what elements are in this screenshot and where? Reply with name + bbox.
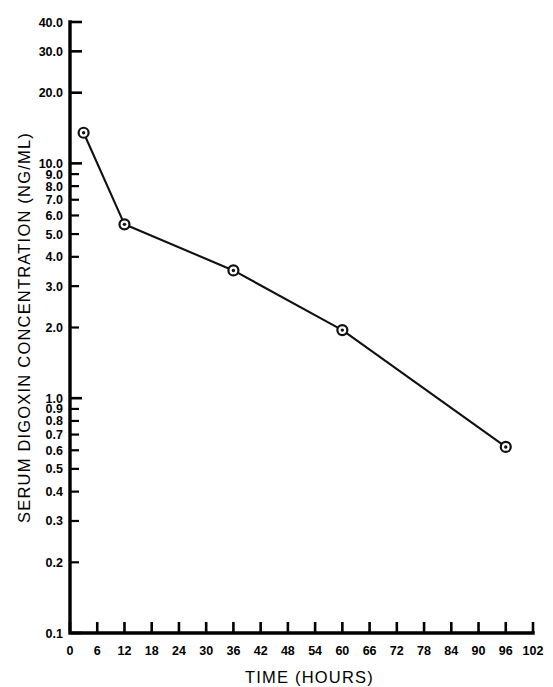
x-tick-label-42: 42 — [254, 644, 268, 658]
x-tick-label-102: 102 — [523, 644, 544, 658]
y-tick-label-20.0: 20.0 — [39, 86, 63, 100]
y-tick-label-0.1: 0.1 — [46, 627, 63, 641]
x-tick-label-12: 12 — [118, 644, 132, 658]
x-tick-label-0: 0 — [67, 644, 74, 658]
x-tick-label-84: 84 — [444, 644, 458, 658]
data-point-center-12h — [123, 223, 126, 226]
x-tick-label-66: 66 — [363, 644, 377, 658]
x-tick-label-30: 30 — [199, 644, 213, 658]
x-tick-label-90: 90 — [472, 644, 486, 658]
y-tick-label-5.0: 5.0 — [46, 228, 63, 242]
y-tick-label-30.0: 30.0 — [39, 45, 63, 59]
chart-container: 40.030.020.010.09.08.07.06.05.04.03.02.0… — [0, 0, 553, 687]
y-tick-label-0.7: 0.7 — [46, 428, 63, 442]
x-tick-label-6: 6 — [94, 644, 101, 658]
x-tick-label-24: 24 — [172, 644, 186, 658]
y-tick-label-0.5: 0.5 — [46, 462, 63, 476]
y-tick-label-4.0: 4.0 — [46, 250, 63, 264]
x-tick-label-96: 96 — [499, 644, 513, 658]
x-tick-label-54: 54 — [308, 644, 322, 658]
x-tick-label-78: 78 — [417, 644, 431, 658]
y-tick-label-0.2: 0.2 — [46, 556, 63, 570]
x-tick-label-72: 72 — [390, 644, 404, 658]
x-axis-title: TIME (HOURS) — [245, 668, 374, 686]
x-tick-label-18: 18 — [145, 644, 159, 658]
axis-lines — [70, 22, 533, 633]
semilog-line-chart: 40.030.020.010.09.08.07.06.05.04.03.02.0… — [0, 0, 553, 687]
y-tick-label-7.0: 7.0 — [46, 193, 63, 207]
y-tick-label-6.0: 6.0 — [46, 209, 63, 223]
y-tick-label-8.0: 8.0 — [46, 180, 63, 194]
y-tick-label-0.4: 0.4 — [46, 485, 63, 499]
data-point-center-96h — [504, 445, 507, 448]
x-tick-label-48: 48 — [281, 644, 295, 658]
series-line-serum-digoxin-concentration — [84, 133, 506, 447]
y-tick-label-3.0: 3.0 — [46, 280, 63, 294]
y-tick-label-2.0: 2.0 — [46, 321, 63, 335]
data-point-center-3h — [82, 131, 85, 134]
y-tick-label-0.3: 0.3 — [46, 514, 63, 528]
x-tick-label-36: 36 — [226, 644, 240, 658]
y-tick-label-0.8: 0.8 — [46, 414, 63, 428]
data-point-center-36h — [232, 269, 235, 272]
x-tick-label-60: 60 — [335, 644, 349, 658]
data-point-center-60h — [341, 328, 344, 331]
y-tick-label-0.6: 0.6 — [46, 444, 63, 458]
y-tick-label-40.0: 40.0 — [39, 16, 63, 30]
y-axis-title: SERUM DIGOXIN CONCENTRATION (NG/ML) — [15, 132, 33, 523]
